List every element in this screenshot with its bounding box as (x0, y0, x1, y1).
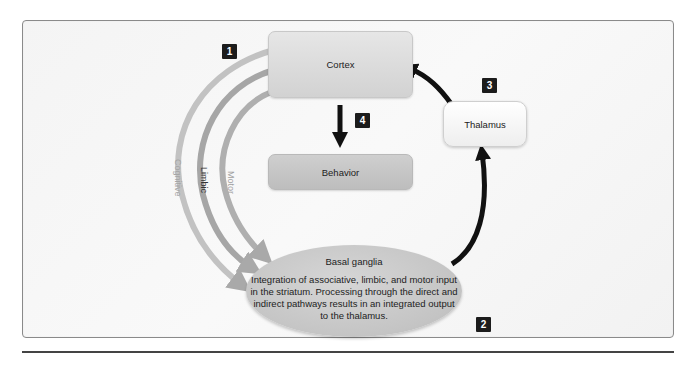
limbic-loop-label: Limbic (199, 167, 209, 193)
step-badge-3: 3 (482, 78, 497, 93)
limbic-loop-arrow (200, 70, 274, 268)
basal-ganglia-to-thalamus-arrow (452, 152, 484, 264)
cortex-node: Cortex (268, 31, 413, 98)
thalamus-label: Thalamus (464, 119, 506, 130)
bottom-divider (22, 351, 674, 353)
cortex-label: Cortex (327, 59, 355, 70)
step-badge-4: 4 (355, 113, 370, 128)
motor-loop-label: Motor (226, 171, 236, 194)
thalamus-node: Thalamus (443, 101, 527, 147)
step-badge-1: 1 (222, 44, 237, 59)
cognitive-loop-label: Cognitive (173, 159, 183, 197)
thalamus-to-cortex-arrow (409, 68, 452, 105)
behavior-node: Behavior (268, 154, 413, 190)
behavior-label: Behavior (322, 167, 360, 178)
step-badge-2: 2 (476, 317, 491, 332)
basal-ganglia-title: Basal ganglia (246, 256, 462, 267)
basal-ganglia-description: Integration of associative, limbic, and … (250, 274, 458, 322)
